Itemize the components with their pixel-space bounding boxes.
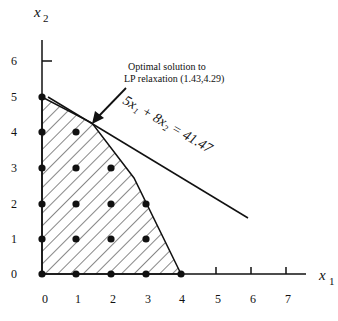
x-axis-label: x 1 <box>318 267 335 287</box>
svg-text:0: 0 <box>42 292 48 306</box>
svg-text:Optimal solution to: Optimal solution to <box>128 61 206 72</box>
svg-text:6: 6 <box>250 292 256 306</box>
svg-text:3: 3 <box>145 292 151 306</box>
svg-text:2: 2 <box>11 197 17 211</box>
svg-text:3: 3 <box>11 161 17 175</box>
svg-text:2: 2 <box>110 292 116 306</box>
svg-text:1: 1 <box>329 275 335 287</box>
x-tick-labels: 0 1 2 3 4 5 6 7 <box>42 292 291 306</box>
objective-label: 5x₁ + 8x₂ = 41.47 <box>121 93 216 157</box>
svg-text:1: 1 <box>75 292 81 306</box>
lp-diagram: 0 1 2 3 4 5 6 0 1 2 3 4 5 6 7 x 2 x 1 Op… <box>0 0 338 321</box>
svg-text:4: 4 <box>11 125 17 139</box>
svg-text:5: 5 <box>215 292 221 306</box>
y-axis-label: x 2 <box>33 4 49 24</box>
svg-text:x: x <box>33 4 41 20</box>
svg-text:x: x <box>318 267 326 283</box>
svg-text:0: 0 <box>11 267 17 281</box>
svg-text:6: 6 <box>11 54 17 68</box>
svg-text:4: 4 <box>179 292 185 306</box>
svg-text:1: 1 <box>11 232 17 246</box>
svg-text:LP relaxation (1.43,4.29): LP relaxation (1.43,4.29) <box>124 73 224 85</box>
svg-text:2: 2 <box>43 12 49 24</box>
y-tick-labels: 0 1 2 3 4 5 6 <box>11 54 17 281</box>
svg-text:5: 5 <box>11 90 17 104</box>
svg-text:7: 7 <box>285 292 291 306</box>
annotation-text: Optimal solution to LP relaxation (1.43,… <box>124 61 224 85</box>
